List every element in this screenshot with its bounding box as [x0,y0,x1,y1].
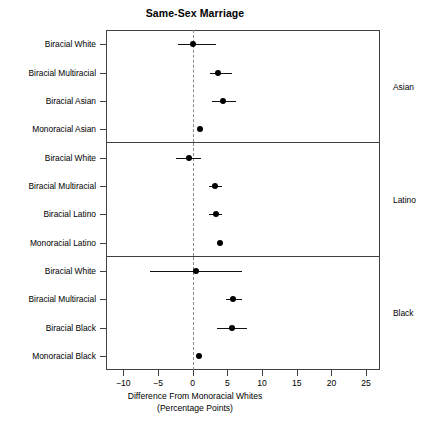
data-point [213,211,219,217]
y-axis-tick [100,243,106,244]
x-axis-tick [158,370,159,376]
y-axis-tick [100,158,106,159]
x-axis-label: −5 [153,378,163,388]
x-axis-label: 20 [327,378,337,388]
confidence-interval [178,44,215,45]
y-axis-tick [100,44,106,45]
y-axis-label: Biracial Multiracial [29,294,96,304]
x-axis-title-line2: (Percentage Points) [0,403,390,413]
data-point [229,325,235,331]
y-axis-tick [100,271,106,272]
y-axis-label: Biracial Multiracial [29,181,96,191]
data-point [220,98,226,104]
data-point [190,41,196,47]
data-point [212,183,218,189]
y-axis-label: Monoracial Black [32,351,96,361]
y-axis-label: Monoracial Latino [30,238,96,248]
y-axis-label: Biracial Latino [43,209,96,219]
panel-latino [106,143,380,256]
y-axis-tick [100,299,106,300]
x-axis-label: 25 [361,378,371,388]
chart-root: Same-Sex Marriage AsianBiracial WhiteBir… [0,0,433,427]
y-axis-label: Biracial Black [46,323,96,333]
data-point [193,268,199,274]
x-axis-tick [193,370,194,376]
y-axis-label: Biracial White [45,266,96,276]
zero-reference-line [193,143,194,255]
y-axis-tick [100,356,106,357]
zero-reference-line [193,257,194,370]
panel-label-asian: Asian [393,82,414,92]
y-axis-tick [100,214,106,215]
x-axis-tick [297,370,298,376]
x-axis-label: 10 [257,378,267,388]
x-axis-tick [331,370,332,376]
confidence-interval [210,73,232,74]
x-axis-title-line1: Difference From Monoracial Whites [0,391,390,401]
data-point [196,353,202,359]
y-axis-tick [100,129,106,130]
x-axis-tick [262,370,263,376]
panel-label-black: Black [393,308,413,318]
y-axis-tick [100,328,106,329]
data-point [215,70,221,76]
y-axis-label: Biracial Asian [46,96,96,106]
panel-label-latino: Latino [393,195,416,205]
panel-asian [106,30,380,143]
panel-black [106,257,380,370]
y-axis-label: Biracial Multiracial [29,68,96,78]
x-axis-tick [227,370,228,376]
x-axis-label: 15 [292,378,302,388]
y-axis-label: Monoracial Asian [32,124,96,134]
x-axis-tick [123,370,124,376]
x-axis-label: 0 [190,378,195,388]
y-axis-label: Biracial White [45,39,96,49]
x-axis-label: −10 [116,378,131,388]
x-axis-tick [366,370,367,376]
y-axis-label: Biracial White [45,153,96,163]
y-axis-tick [100,186,106,187]
x-axis-label: 5 [225,378,230,388]
y-axis-tick [100,101,106,102]
chart-title: Same-Sex Marriage [0,7,390,19]
y-axis-tick [100,73,106,74]
data-point [186,155,192,161]
